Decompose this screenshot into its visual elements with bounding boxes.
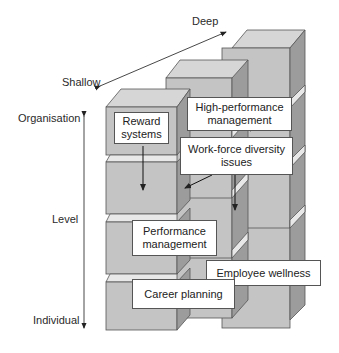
organisation-label: Organisation xyxy=(18,112,80,125)
shallow-label: Shallow xyxy=(62,76,101,89)
deep-label: Deep xyxy=(192,15,218,28)
level-label: Level xyxy=(52,213,78,226)
performance-management-box: Performance management xyxy=(132,220,217,256)
career-planning-box: Career planning xyxy=(132,279,235,309)
individual-label: Individual xyxy=(33,314,79,327)
workforce-diversity-box: Work-force diversity issues xyxy=(180,137,293,175)
reward-systems-box: Reward systems xyxy=(114,112,169,144)
high-performance-box: High-performance management xyxy=(187,97,292,131)
